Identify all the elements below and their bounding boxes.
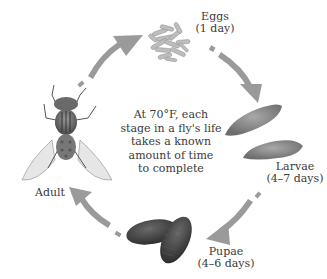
pupae-illustration [124,212,198,268]
caption-line-2: stage in a fly's life [115,122,227,136]
caption-line-5: to complete [115,162,227,176]
eggs-duration: (1 day) [190,23,240,35]
pupae-duration: (4–6 days) [192,258,260,270]
larvae-illustration [225,104,303,159]
arrow-larvae-to-pupae [206,191,261,245]
stage-label-larvae: Larvae (4–7 days) [262,161,327,185]
arrow-adult-to-eggs [77,35,143,87]
caption-line-1: At 70°F, each [115,108,227,122]
stage-label-pupae: Pupae (4–6 days) [192,246,260,270]
caption-line-3: takes a known [115,135,227,149]
eggs-illustration [148,22,190,62]
larvae-duration: (4–7 days) [262,173,327,185]
caption-line-4: amount of time [115,149,227,163]
arrow-eggs-to-larvae [209,45,262,103]
stage-label-adult: Adult [30,187,70,199]
stage-label-eggs: Eggs (1 day) [190,11,240,35]
center-caption: At 70°F, each stage in a fly's life take… [115,108,227,176]
arrow-pupae-to-adult [69,187,122,237]
adult-name: Adult [30,187,70,199]
adult-fly-illustration [22,85,112,180]
